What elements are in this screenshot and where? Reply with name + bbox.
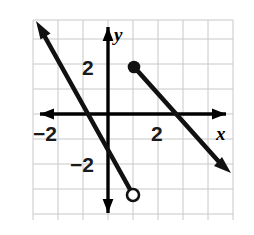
open-endpoint-marker [127, 189, 139, 201]
x-tick-label-positive-two: 2 [151, 122, 163, 145]
x-tick-label-negative-two: −2 [33, 122, 57, 145]
coordinate-plane-graph: x y −2 2 2 −2 [0, 0, 254, 235]
graph-figure: x y −2 2 2 −2 [0, 0, 254, 235]
y-axis-name-label: y [112, 24, 123, 45]
y-tick-label-positive-two: 2 [82, 56, 94, 79]
y-tick-label-negative-two: −2 [70, 153, 94, 176]
x-axis-name-label: x [215, 123, 226, 144]
closed-endpoint-marker [128, 61, 141, 74]
